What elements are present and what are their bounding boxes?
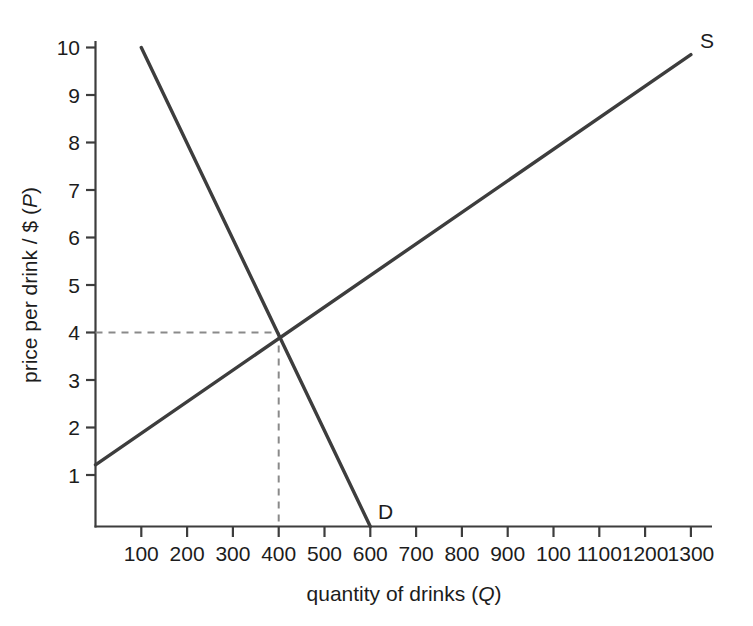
y-tick-label-1: 1 (68, 464, 80, 487)
x-tick-label-200: 200 (170, 542, 205, 565)
y-tick-label-10: 10 (57, 36, 80, 59)
y-axis-title-symbol: P (18, 194, 41, 208)
x-tick-label-100: 100 (124, 542, 159, 565)
x-axis-title-symbol: Q (478, 582, 494, 605)
x-tick-label-1300: 1300 (668, 542, 715, 565)
x-tick-label-700: 700 (399, 542, 434, 565)
x-axis-title-text: quantity of drinks (307, 582, 466, 605)
x-tick-label-1000: 100 (536, 542, 571, 565)
y-tick-label-5: 5 (68, 274, 80, 297)
supply-curve-label: S (700, 29, 714, 52)
x-tick-label-800: 800 (444, 542, 479, 565)
x-tick-label-1100: 1100 (577, 542, 622, 565)
y-axis-title: price per drink / $ (P) (18, 187, 41, 383)
chart-canvas: 10 9 8 7 6 5 4 3 2 1 (0, 0, 753, 626)
x-tick-label-1200: 1200 (622, 542, 669, 565)
x-tick-label-600: 600 (353, 542, 388, 565)
y-tick-label-9: 9 (68, 84, 80, 107)
y-tick-label-3: 3 (68, 369, 80, 392)
supply-demand-chart: 10 9 8 7 6 5 4 3 2 1 (0, 0, 753, 626)
y-tick-label-6: 6 (68, 226, 80, 249)
y-tick-label-7: 7 (68, 179, 80, 202)
chart-background (0, 0, 753, 626)
x-tick-label-400: 400 (261, 542, 296, 565)
x-tick-label-500: 500 (307, 542, 342, 565)
y-tick-label-8: 8 (68, 131, 80, 154)
x-axis-title: quantity of drinks (Q) (307, 582, 502, 605)
y-tick-label-4: 4 (68, 321, 80, 344)
demand-curve-label: D (378, 500, 393, 523)
x-tick-label-300: 300 (215, 542, 250, 565)
x-tick-label-900: 900 (490, 542, 525, 565)
y-tick-label-2: 2 (68, 416, 80, 439)
y-axis-title-text: price per drink / $ (18, 220, 41, 383)
